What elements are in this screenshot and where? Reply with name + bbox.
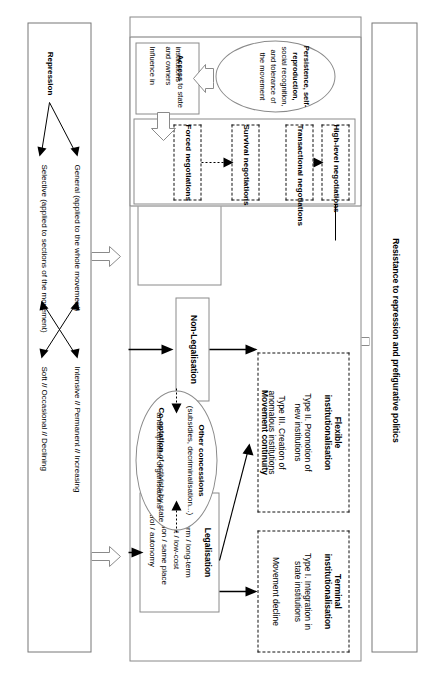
long-connector-layer (0, 0, 431, 695)
